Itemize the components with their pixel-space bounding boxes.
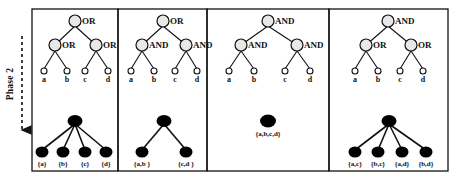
tree-mid-label: AND: [193, 40, 213, 50]
tree-mid-node: [405, 39, 417, 51]
result-child-label: {a,b }: [134, 160, 151, 168]
panel-4-border: [329, 9, 448, 171]
tree-leaf-label: b: [376, 75, 381, 84]
tree-leaf-label: a: [42, 75, 46, 84]
tree-mid-node: [180, 39, 192, 51]
tree-leaf-node: [282, 68, 288, 74]
tree-leaf-label: b: [65, 75, 70, 84]
tree-mid-label: OR: [62, 40, 76, 50]
tree-edge: [142, 51, 154, 69]
result-child-node: [349, 147, 362, 158]
tree-leaf-node: [251, 68, 257, 74]
tree-edge: [44, 51, 55, 69]
result-child-label: {c}: [81, 160, 90, 168]
tree-mid-label: OR: [103, 40, 117, 50]
result-child-label: {b,d}: [418, 160, 433, 168]
tree-leaf-label: c: [283, 75, 287, 84]
result-root-node: [157, 115, 172, 127]
tree-edge: [366, 51, 378, 69]
tree-leaf-node: [151, 68, 157, 74]
tree-mid-label: OR: [373, 40, 387, 50]
tree-root-label: OR: [170, 16, 184, 26]
tree-edge: [411, 51, 423, 69]
result-child-node: [180, 147, 193, 158]
tree-edge: [241, 51, 254, 69]
result-edge: [42, 124, 75, 150]
tree-root-node: [69, 15, 81, 27]
panel-3-border: [207, 9, 329, 171]
tree-leaf-node: [226, 68, 232, 74]
result-child-label: {b,c}: [371, 160, 386, 168]
tree-leaf-label: c: [173, 75, 177, 84]
tree-mid-label: AND: [248, 40, 268, 50]
tree-edge: [355, 51, 366, 69]
phase2-expression-tree-figure: Phase 2 OR OR OR a b c d: [0, 0, 454, 179]
tree-leaf-node: [307, 68, 313, 74]
result-edge: [164, 124, 186, 150]
tree-leaf-node: [82, 68, 88, 74]
result-child-node: [79, 147, 92, 158]
tree-leaf-node: [105, 68, 111, 74]
tree-edge: [400, 51, 411, 69]
tree-edge: [285, 51, 297, 69]
phase-arrow-group: Phase 2: [5, 36, 22, 130]
tree-mid-node: [90, 39, 102, 51]
result-root-label: {a,b,c,d}: [255, 130, 280, 138]
result-child-node: [36, 147, 49, 158]
tree-leaf-node: [64, 68, 70, 74]
tree-leaf-label: d: [195, 75, 200, 84]
tree-root-label: AND: [395, 16, 415, 26]
tree-leaf-node: [172, 68, 178, 74]
panel-4: AND OR OR a b c d {a,c} {b,c} {a,d} {b,d…: [348, 15, 434, 168]
result-child-label: {a,c}: [348, 160, 362, 168]
tree-leaf-label: c: [398, 75, 402, 84]
result-child-node: [420, 147, 433, 158]
result-child-label: {a,d}: [395, 160, 410, 168]
result-child-label: {c,d }: [178, 160, 194, 168]
phase-label: Phase 2: [5, 68, 15, 100]
tree-mid-node: [136, 39, 148, 51]
panel-3: AND AND AND a b c d {a,b,c,d}: [226, 15, 324, 138]
tree-edge: [131, 51, 142, 69]
tree-mid-node: [291, 39, 303, 51]
tree-edge: [175, 51, 186, 69]
result-root-node: [260, 115, 276, 128]
result-child-node: [136, 147, 149, 158]
tree-leaf-node: [375, 68, 381, 74]
result-edge: [389, 124, 426, 150]
tree-leaf-node: [194, 68, 200, 74]
tree-edge: [229, 51, 241, 69]
tree-edge: [186, 51, 197, 69]
tree-root-node: [382, 15, 394, 27]
result-root-node: [68, 115, 83, 127]
tree-leaf-label: d: [106, 75, 111, 84]
tree-root-label: AND: [275, 16, 295, 26]
tree-edge: [55, 51, 67, 69]
result-child-node: [372, 147, 385, 158]
tree-edge: [85, 51, 96, 69]
tree-leaf-node: [128, 68, 134, 74]
tree-root-node: [262, 15, 274, 27]
tree-root-node: [157, 15, 169, 27]
tree-leaf-label: a: [227, 75, 231, 84]
tree-mid-label: OR: [418, 40, 432, 50]
tree-leaf-label: d: [421, 75, 426, 84]
tree-leaf-label: b: [252, 75, 257, 84]
result-child-label: {b}: [58, 160, 68, 168]
result-root-node: [382, 115, 397, 127]
tree-leaf-node: [41, 68, 47, 74]
tree-mid-node: [235, 39, 247, 51]
result-edge: [142, 124, 164, 150]
tree-edge: [96, 51, 108, 69]
tree-leaf-label: a: [129, 75, 133, 84]
result-child-label: {d}: [101, 160, 111, 168]
result-child-node: [396, 147, 409, 158]
tree-root-label: OR: [82, 16, 96, 26]
tree-leaf-node: [352, 68, 358, 74]
tree-leaf-label: a: [353, 75, 357, 84]
result-child-node: [57, 147, 70, 158]
tree-edge: [297, 51, 310, 69]
panel-2-border: [118, 9, 207, 171]
tree-mid-node: [49, 39, 61, 51]
panel-1: OR OR OR a b c d {a} {b} {c} {d}: [36, 15, 118, 168]
